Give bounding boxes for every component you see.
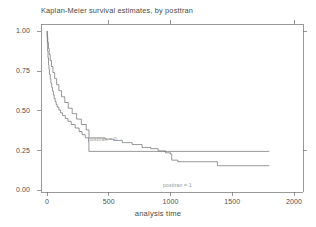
y-tick-label-3: 0.75: [4, 67, 30, 74]
x-tick-label-2: 1000: [156, 198, 186, 205]
x-axis-title: analysis time: [0, 209, 316, 218]
y-tick-label-4: 1.00: [4, 27, 30, 34]
plot-frame: [41, 24, 303, 192]
survival-curve-posttran-0: [47, 31, 269, 151]
x-tick-label-1: 500: [94, 198, 124, 205]
kaplan-meier-figure: Kaplan-Meier survival estimates, by post…: [0, 0, 316, 227]
y-tick-label-0: 0.00: [4, 186, 30, 193]
curve-label-posttran-1: posttran = 1: [163, 182, 192, 188]
plot-area: [0, 0, 316, 227]
y-tick-label-1: 0.25: [4, 147, 30, 154]
survival-curve-posttran-1: [47, 31, 269, 166]
survival-curves: [47, 31, 269, 166]
x-tick-label-0: 0: [32, 198, 62, 205]
x-tick-label-3: 1500: [217, 198, 247, 205]
x-axis-ticks: [47, 192, 294, 196]
y-tick-label-2: 0.50: [4, 107, 30, 114]
x-axis-ticks-top: [109, 20, 294, 24]
y-axis-ticks: [37, 31, 307, 190]
curve-label-posttran-0: posttran = 0: [88, 136, 117, 142]
x-tick-label-4: 2000: [279, 198, 309, 205]
